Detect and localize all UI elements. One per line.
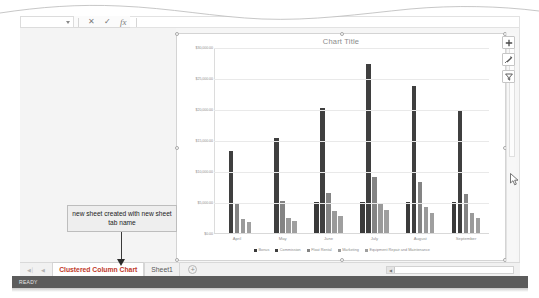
legend-label: Float Rental [311,248,331,252]
chart-bar[interactable] [274,138,279,233]
nav-prev-icon[interactable]: ◀ [41,267,45,273]
nav-first-icon[interactable]: ◀│ [27,267,34,273]
y-axis-tick-label: $20,000.00 [196,108,214,112]
sheet-nav-arrows[interactable]: ◀│ ◀ [20,267,52,273]
y-axis-tick-label: $10,000.00 [196,170,214,174]
plus-icon: + [188,265,197,274]
plus-icon [505,39,513,47]
horizontal-scrollbar-thumb[interactable]: ◀ [387,267,395,273]
x-axis-labels: AprilMayJuneJulyAugustSeptember [214,236,489,245]
y-axis-tick-label: $30,000.00 [196,46,214,50]
filter-icon [505,73,513,81]
chart-bar[interactable] [292,221,297,233]
resize-handle[interactable] [175,32,179,36]
chart-bar[interactable] [452,202,457,233]
callout-stem [121,232,122,261]
sheet-tab-sheet1[interactable]: Sheet1 [144,263,180,276]
chart-bar[interactable] [247,222,252,233]
x-axis-tick-label: August [397,236,443,245]
sheet-tab-label: Clustered Column Chart [59,266,137,273]
formula-input[interactable] [130,16,520,28]
chart-bar[interactable] [470,213,475,233]
y-axis-labels: $0.00$5,000.00$10,000.00$15,000.00$20,00… [179,48,213,234]
chart-bar[interactable] [241,219,246,233]
chart-bar[interactable] [412,86,417,233]
chart-elements-button[interactable] [502,36,515,49]
name-box[interactable] [20,16,74,28]
chart-bar[interactable] [332,211,337,233]
chart-bar[interactable] [406,202,411,233]
chart-bar[interactable] [464,194,469,233]
chart-bar[interactable] [229,151,234,233]
sheet-tab-clustered-column-chart[interactable]: Clustered Column Chart [52,262,144,276]
legend-swatch-icon [307,249,310,252]
chart-bar[interactable] [372,177,377,233]
cancel-icon[interactable]: ✕ [88,18,95,26]
resize-handle[interactable] [340,32,344,36]
status-bar: READY [12,276,528,288]
add-sheet-button[interactable]: + [186,263,200,277]
chart-bar[interactable] [326,193,331,233]
sheet-tab-label: Sheet1 [151,266,173,273]
status-text: READY [12,279,38,285]
gridline [214,79,489,80]
horizontal-scrollbar[interactable]: ◀ [386,266,514,274]
chart-bar[interactable] [366,64,371,233]
legend-label: Marketing [342,248,359,252]
y-axis-tick-label: $0.00 [204,232,213,236]
callout-arrow-icon [117,259,125,266]
legend-item[interactable]: Equipment Repair and Maintenance [365,248,430,252]
chart-bar[interactable] [418,182,423,233]
gridline [214,141,489,142]
y-axis-tick-label: $15,000.00 [196,139,214,143]
legend-swatch-icon [365,249,368,252]
chart-styles-button[interactable] [502,53,515,66]
chevron-down-icon [66,21,70,24]
y-axis-tick-label: $5,000.00 [197,201,213,205]
legend-label: Equipment Repair and Maintenance [369,248,430,252]
chart-bar[interactable] [360,202,365,233]
x-axis-tick-label: September [443,236,489,245]
x-axis-tick-label: May [260,236,306,245]
chart-plot-wrapper: $0.00$5,000.00$10,000.00$15,000.00$20,00… [177,48,507,262]
chart-bar[interactable] [320,108,325,233]
plot-area [214,48,489,234]
legend-item[interactable]: Commission [275,248,300,252]
chart-bar[interactable] [338,216,343,233]
formula-bar-buttons: ✕ ✓ fx [78,16,137,28]
x-axis-line [214,233,489,234]
legend-item[interactable]: Bonus [254,248,269,252]
legend-label: Commission [280,248,301,252]
chart-bar[interactable] [430,213,435,233]
chart-bar[interactable] [235,204,240,233]
x-axis-tick-label: July [351,236,397,245]
chart-bar[interactable] [476,218,481,234]
legend-swatch-icon [275,249,278,252]
legend-swatch-icon [254,249,257,252]
chart-filters-button[interactable] [502,70,515,83]
y-axis-tick-label: $25,000.00 [196,77,214,81]
chart-object[interactable]: Chart Title $0.00$5,000.00 [176,33,506,261]
chart-bar[interactable] [286,218,291,233]
insert-function-icon[interactable]: fx [120,18,127,27]
gridline [214,172,489,173]
sheet-tab-bar: ◀│ ◀ Clustered Column Chart Sheet1 + ◀ [20,262,520,276]
chart-bar[interactable] [314,202,319,233]
legend-item[interactable]: Float Rental [307,248,332,252]
divider [136,18,137,27]
chart-bar[interactable] [280,201,285,233]
brush-icon [504,55,513,64]
chart-bar[interactable] [384,210,389,233]
gridline [214,48,489,49]
chart-title[interactable]: Chart Title [177,37,505,46]
enter-icon[interactable]: ✓ [104,18,111,26]
divider [78,18,79,27]
gridline [214,203,489,204]
chart-bar[interactable] [378,204,383,233]
chart-bar[interactable] [424,207,429,233]
callout-text: new sheet created with new sheet tab nam… [68,210,176,226]
gridline [214,110,489,111]
legend-item[interactable]: Marketing [338,248,359,252]
chart-legend: BonusCommissionFloat RentalMarketingEqui… [177,245,507,255]
legend-label: Bonus [259,248,270,252]
